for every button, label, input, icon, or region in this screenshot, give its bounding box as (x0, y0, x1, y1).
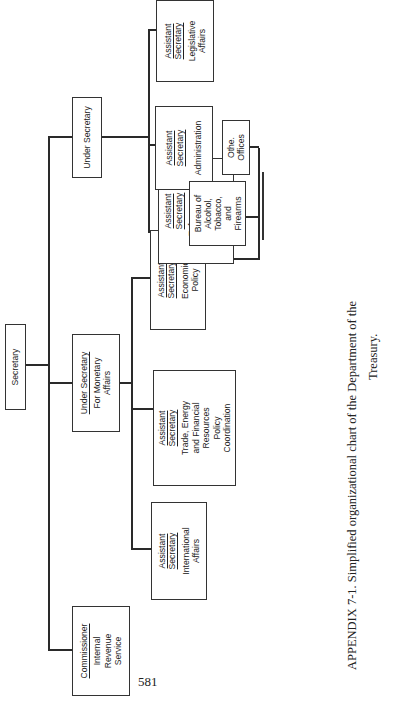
as-administration-box: Assistant Secretary Administration (155, 106, 213, 190)
connector (148, 29, 156, 31)
page-number: 581 (138, 674, 158, 690)
other-offices-box: Othe. Offices (222, 120, 250, 175)
connector (48, 136, 72, 138)
connector (148, 144, 155, 146)
economic-body: Economic Policy (180, 261, 201, 299)
connector (131, 408, 153, 410)
secretary-label: Secretary (10, 349, 20, 386)
commissioner-title: Commissioner (79, 624, 89, 679)
as-title: Assistant Secretary (157, 410, 178, 447)
as-title: Assistant Secretary (163, 193, 184, 230)
figure-caption-line1: APPENDIX 7-1. Simplified organizational … (345, 301, 360, 670)
usm-body: For Monetary Affairs (92, 357, 113, 408)
figure-caption-line2: Treasury. (366, 334, 381, 380)
connector (250, 146, 259, 148)
under-secretary-box: Under Secretary (72, 97, 102, 178)
batf-box (262, 172, 264, 240)
connector (48, 649, 72, 651)
us-title: Under Secretary (82, 106, 92, 169)
as-international-box: Assistant Secretary International Affair… (151, 502, 207, 600)
connector (131, 277, 150, 279)
commissioner-body: Internal Revenue Service (92, 634, 123, 668)
legislative-body: Legislative Affairs (187, 21, 208, 62)
connector (258, 148, 260, 218)
secretary-box: Secretary (5, 324, 26, 410)
under-secretary-monetary-box: Under Secretary For Monetary Affairs (72, 334, 120, 432)
connector (258, 218, 260, 260)
as-title: Assistant Secretary (164, 130, 185, 167)
administration-body: Administration (193, 121, 203, 175)
batf-label: Bureau of Alcohol, Tobacco, and Firearms (193, 195, 243, 232)
as-title: Assistant Secretary (163, 23, 184, 60)
org-chart-canvas: Secretary Commissioner Internal Revenue … (0, 0, 407, 710)
as-legislative-box: Assistant Secretary Legislative Affairs (156, 0, 214, 82)
connector (48, 382, 72, 384)
as-title: Assistant Secretary (157, 533, 178, 570)
connector (48, 136, 50, 651)
connector (25, 364, 49, 366)
connector (102, 136, 149, 138)
bureau-alcohol-tobacco-and-firearms-box: Bureau of Alcohol, Tobacco, and Firearms (189, 181, 246, 246)
trade-body: Trade, Energy and Financial Resources Po… (180, 401, 232, 455)
connector (131, 277, 133, 550)
commissioner-irs-box: Commissioner Internal Revenue Service (72, 606, 130, 696)
connector (148, 30, 150, 233)
as-title: Assistant Secretary (156, 262, 177, 299)
other-offices-label: Othe. Offices (226, 134, 247, 161)
international-body: International Affairs (181, 527, 202, 574)
usm-title: Under Secretary (79, 352, 89, 415)
connector (131, 548, 151, 550)
as-trade-box: Assistant Secretary Trade, Energy and Fi… (153, 370, 236, 486)
